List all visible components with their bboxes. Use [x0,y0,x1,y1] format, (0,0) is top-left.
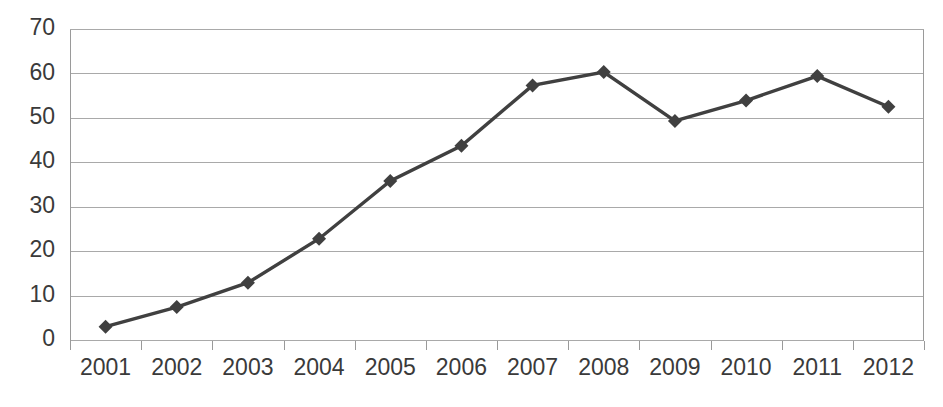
x-tick-label-2004: 2004 [293,354,344,380]
x-tick-label-2002: 2002 [151,354,202,380]
data-point-2012 [881,100,895,114]
y-tick-label-40: 40 [29,147,55,173]
data-point-2001 [99,320,113,334]
chart-canvas: 010203040506070 200120022003200420052006… [0,0,943,407]
axis-lines [71,30,924,341]
data-point-2010 [739,94,753,108]
data-point-2011 [810,69,824,83]
y-tick-label-0: 0 [42,325,55,351]
y-tick-label-60: 60 [29,59,55,85]
x-tick-label-2010: 2010 [720,354,771,380]
y-axis-tick-labels: 010203040506070 [29,14,55,351]
x-tick-label-2009: 2009 [649,354,700,380]
x-tick-label-2012: 2012 [863,354,914,380]
x-tick-label-2006: 2006 [436,354,487,380]
x-tick-label-2003: 2003 [222,354,273,380]
y-tick-label-20: 20 [29,236,55,262]
line-chart: 010203040506070 200120022003200420052006… [0,0,943,407]
x-axis-tickmarks [71,341,925,350]
x-tick-label-2007: 2007 [507,354,558,380]
y-tick-label-30: 30 [29,192,55,218]
y-tick-label-70: 70 [29,14,55,40]
y-tick-label-50: 50 [29,103,55,129]
data-point-2002 [170,300,184,314]
x-tick-label-2011: 2011 [793,354,842,380]
x-axis-tick-labels: 2001200220032004200520062007200820092010… [80,354,914,380]
gridlines [70,30,924,341]
x-tick-label-2005: 2005 [365,354,416,380]
y-tick-label-10: 10 [29,281,55,307]
x-tick-label-2008: 2008 [578,354,629,380]
x-tick-label-2001: 2001 [80,354,131,380]
data-series [106,72,889,327]
series-line-0 [106,72,889,327]
